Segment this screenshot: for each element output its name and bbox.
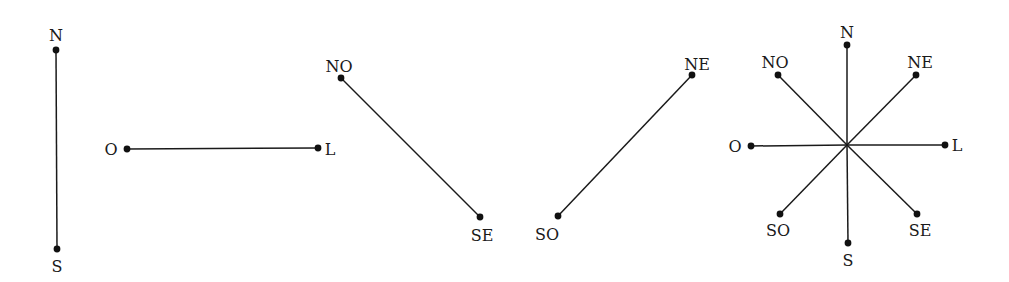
direction-label: NO — [761, 53, 788, 72]
direction-line — [341, 78, 480, 217]
direction-label: SE — [909, 221, 932, 240]
panel-northeast-southwest: NESO — [535, 55, 710, 244]
direction-line — [56, 50, 57, 249]
direction-label: S — [843, 251, 854, 270]
cardinal-directions-diagram: NSOLNOSENESONNELSESSOONO — [0, 0, 1009, 282]
endpoint-dot — [942, 142, 949, 149]
endpoint-dot — [315, 145, 322, 152]
panel-compass-rose: NNELSESSOONO — [728, 23, 962, 270]
compass-ray — [780, 145, 847, 214]
endpoint-dot — [477, 214, 484, 221]
endpoint-dot — [124, 146, 131, 153]
direction-label: NO — [325, 57, 352, 76]
panel-west-east: OL — [104, 140, 335, 159]
direction-label: L — [952, 136, 963, 155]
direction-line — [127, 148, 318, 149]
direction-label: N — [49, 26, 63, 45]
endpoint-dot — [844, 42, 851, 49]
endpoint-dot — [914, 211, 921, 218]
direction-label: N — [840, 23, 854, 42]
direction-label: O — [104, 140, 117, 159]
compass-ray — [847, 145, 848, 243]
direction-label: NE — [907, 53, 933, 72]
endpoint-dot — [913, 72, 920, 79]
direction-line — [558, 75, 692, 216]
endpoint-dot — [777, 211, 784, 218]
panel-north-south: NS — [49, 26, 63, 276]
endpoint-dot — [555, 213, 562, 220]
endpoint-dot — [748, 143, 755, 150]
endpoint-dot — [775, 72, 782, 79]
compass-ray — [751, 145, 847, 146]
direction-label: SE — [471, 226, 494, 245]
direction-label: O — [728, 137, 741, 156]
endpoint-dot — [845, 240, 852, 247]
diagram-svg: NSOLNOSENESONNELSESSOONO — [0, 0, 1009, 282]
compass-ray — [847, 145, 917, 214]
direction-label: SO — [766, 221, 790, 240]
panel-northwest-southeast: NOSE — [325, 57, 493, 245]
endpoint-dot — [53, 47, 60, 54]
endpoint-dot — [54, 246, 61, 253]
direction-label: S — [52, 257, 63, 276]
compass-ray — [778, 75, 847, 145]
compass-ray — [847, 75, 916, 145]
direction-label: SO — [535, 225, 559, 244]
direction-label: NE — [684, 55, 710, 74]
direction-label: L — [325, 140, 336, 159]
